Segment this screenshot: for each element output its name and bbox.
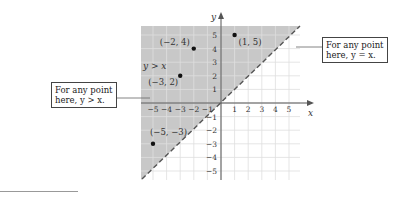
- x-axis-arrow-icon: [307, 100, 314, 106]
- y-tick-label: −4: [206, 153, 217, 162]
- data-point: [151, 142, 155, 146]
- x-tick-label: −2: [188, 105, 199, 114]
- left-callout-line1: For any point: [55, 85, 113, 95]
- point-label: (1, 5): [239, 37, 262, 47]
- y-tick-label: −3: [206, 140, 217, 149]
- y-tick-label: 1: [212, 85, 217, 94]
- point-label: (−5, −3): [150, 127, 187, 137]
- y-tick-label: −2: [206, 126, 217, 135]
- y-axis-label: y: [210, 12, 217, 22]
- x-tick-label: −4: [161, 105, 172, 114]
- data-point: [232, 33, 236, 37]
- right-callout: For any point here, y = x.: [322, 37, 388, 63]
- x-tick-label: −3: [175, 105, 186, 114]
- point-label: (−3, 2): [148, 77, 178, 87]
- x-tick-label: −5: [147, 105, 158, 114]
- left-callout: For any point here, y > x.: [51, 82, 117, 108]
- data-point: [178, 74, 182, 78]
- x-tick-label: 5: [287, 105, 292, 114]
- left-callout-line2: here, y > x.: [55, 95, 113, 105]
- y-tick-label: −1: [206, 113, 217, 122]
- y-axis-arrow-icon: [218, 12, 224, 19]
- y-tick-label: 2: [212, 72, 217, 81]
- y-tick-label: 5: [212, 31, 217, 40]
- x-tick-label: 4: [273, 105, 278, 114]
- y-tick-label: 4: [212, 45, 217, 54]
- x-axis-label: x: [308, 108, 313, 118]
- x-tick-label: 2: [246, 105, 251, 114]
- right-callout-line2: here, y = x.: [326, 50, 384, 60]
- x-tick-label: 3: [259, 105, 264, 114]
- x-tick-label: 1: [232, 105, 237, 114]
- y-tick-label: −5: [206, 167, 217, 176]
- point-label: (−2, 4): [160, 37, 190, 47]
- region-label: y > x: [142, 61, 166, 71]
- y-tick-label: 3: [212, 58, 217, 67]
- right-callout-line1: For any point: [326, 40, 384, 50]
- data-point: [192, 46, 196, 50]
- footnote-rule: [0, 191, 78, 192]
